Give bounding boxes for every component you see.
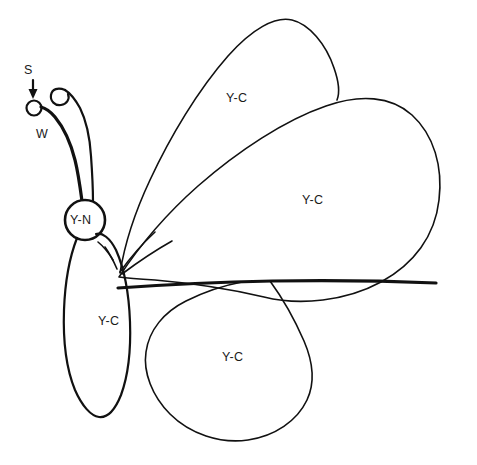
label-wing-upper-left: Y-C (226, 91, 247, 105)
label-wing-upper-right: Y-C (302, 193, 323, 207)
label-nucleus: Y-N (70, 213, 91, 227)
antenna-left-icon (27, 101, 83, 202)
label-scale-pointer: S (24, 63, 33, 77)
forewing-lower-shape (119, 99, 440, 302)
callout-arrow-icon (29, 80, 38, 99)
label-wing-lower-right: Y-C (222, 350, 243, 364)
diagram-canvas: S W Y-N Y-C Y-C Y-C Y-C (0, 0, 477, 465)
body-abdomen-shape (64, 234, 130, 417)
label-wing-lower-left: Y-C (98, 314, 119, 328)
label-wing-callout: W (36, 127, 48, 141)
butterfly-drawing (0, 0, 477, 465)
